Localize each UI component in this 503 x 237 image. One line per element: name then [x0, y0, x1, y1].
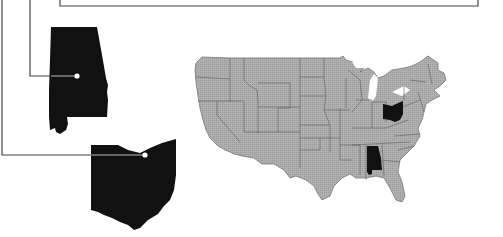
- us-map: [195, 56, 446, 202]
- alabama-callout-dot: [74, 73, 79, 78]
- ohio-callout-dot: [142, 152, 147, 157]
- alabama-enlarged-shape: [49, 27, 108, 134]
- top-caption-box: [60, 0, 478, 6]
- ohio-enlarged-shape: [91, 139, 176, 230]
- us-map-diagram: Alabama Ohio: [0, 0, 503, 237]
